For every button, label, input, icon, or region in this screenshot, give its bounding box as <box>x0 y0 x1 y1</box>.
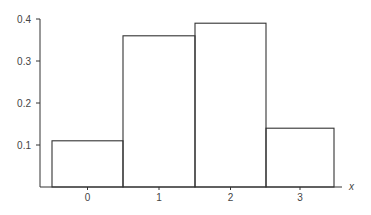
y-tick-label: 0.4 <box>17 14 31 25</box>
y-tick-label: 0.1 <box>17 140 31 151</box>
histogram-bar <box>195 23 266 187</box>
histogram-bar <box>266 128 334 187</box>
x-tick-label: 3 <box>297 192 303 203</box>
x-tick-label: 2 <box>228 192 234 203</box>
y-tick-label: 0.3 <box>17 56 31 67</box>
x-tick-label: 0 <box>85 192 91 203</box>
y-axis: 0.10.20.30.4 <box>17 14 40 188</box>
x-tick-label: 1 <box>156 192 162 203</box>
histogram-bar <box>123 36 195 187</box>
x-axis: 0123 <box>40 187 342 203</box>
x-axis-label: x <box>348 181 355 192</box>
histogram-chart: 0.10.20.30.4 0123 x <box>0 0 371 215</box>
bars <box>52 23 334 187</box>
histogram-bar <box>52 141 123 187</box>
y-tick-label: 0.2 <box>17 98 31 109</box>
